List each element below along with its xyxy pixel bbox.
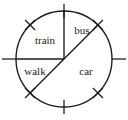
- tick-lower-right: [93, 88, 103, 98]
- sector-label-train: train: [35, 34, 56, 46]
- pie-chart-svg: bus car walk train: [0, 0, 128, 120]
- sector-label-bus: bus: [74, 24, 89, 36]
- sector-label-walk: walk: [24, 65, 46, 77]
- sector-label-car: car: [79, 65, 93, 77]
- pie-chart-figure: bus car walk train: [0, 0, 128, 120]
- tick-upper-right: [93, 20, 103, 30]
- tick-lower-left: [25, 88, 35, 98]
- tick-upper-left: [25, 20, 35, 30]
